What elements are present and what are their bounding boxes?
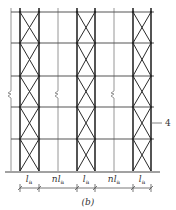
joint	[94, 75, 96, 77]
dimension-label: la	[26, 174, 33, 185]
joint	[94, 106, 96, 108]
joint	[38, 42, 40, 44]
callout-label: 4	[165, 118, 171, 128]
joint	[19, 106, 21, 108]
joint	[94, 138, 96, 140]
dimension-label: nla	[108, 174, 121, 185]
figure-caption: (b)	[82, 197, 95, 207]
callout-4: 4	[151, 118, 171, 128]
dimension-label: la	[139, 174, 146, 185]
break-mark-icon	[111, 88, 114, 98]
joint	[94, 42, 96, 44]
break-marks	[8, 88, 114, 98]
joint	[38, 75, 40, 77]
joint	[132, 75, 134, 77]
joint	[132, 106, 134, 108]
joint	[132, 138, 134, 140]
dimension-label: la	[83, 174, 90, 185]
joint	[76, 42, 78, 44]
joint	[150, 138, 152, 140]
joint	[132, 11, 134, 13]
joint	[76, 75, 78, 77]
joint	[150, 106, 152, 108]
joint	[19, 138, 21, 140]
break-mark-icon	[8, 88, 11, 98]
joint	[132, 42, 134, 44]
joint	[150, 75, 152, 77]
dimension-row: lanlalanlala	[18, 174, 153, 192]
joint	[38, 106, 40, 108]
joint	[76, 11, 78, 13]
joint	[19, 75, 21, 77]
joint	[76, 138, 78, 140]
dimension-label: nla	[52, 174, 65, 185]
scaffold-elevation-diagram: lanlalanlala 4 (b)	[0, 0, 176, 210]
joint	[38, 11, 40, 13]
joint	[150, 11, 152, 13]
joint	[150, 42, 152, 44]
joint	[38, 138, 40, 140]
braced-bays	[19, 8, 152, 171]
joint	[76, 106, 78, 108]
joint	[94, 11, 96, 13]
break-mark-icon	[55, 88, 58, 98]
joint	[19, 42, 21, 44]
joint	[19, 11, 21, 13]
